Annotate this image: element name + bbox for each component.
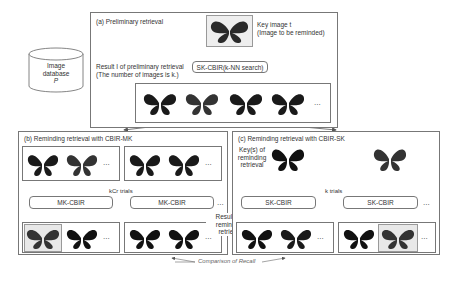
key-image [207,16,252,46]
butterfly-icon [379,225,417,251]
panel-cbir-mk: (b) Reminding retrieval with CBIR-MK ...… [18,131,228,255]
sk-result-row-right: ... [338,222,436,253]
matched-key-image [25,225,61,251]
ellipsis: ... [317,232,324,241]
mk-key-set-right: ... [124,146,222,181]
key-image-label-2: (Image to be reminded) [257,29,325,37]
mk-cbir-box-left: MK-CBIR [29,196,113,209]
ellipsis: ... [314,98,321,107]
butterfly-icon [207,16,252,46]
butterfly-icon [26,150,60,178]
butterfly-icon [279,225,313,251]
mk-result-row-left: ... [22,222,120,253]
panel-preliminary-retrieval: (a) Preliminary retrieval Key image t (I… [90,12,338,128]
keys-label-3: retrieval [235,161,269,169]
butterfly-icon [128,150,162,178]
ellipsis: ... [205,158,212,167]
database-label-3: P [27,77,85,85]
butterfly-icon [184,89,220,117]
database-label-2: database [27,70,85,78]
key-image-label-1: Key image t [257,21,325,29]
sk-result-row-left: ... [236,222,334,253]
butterfly-icon [65,150,99,178]
ellipsis: ... [423,198,430,207]
butterfly-icon [128,225,162,251]
image-database: Image database P [27,46,85,94]
panel-cbir-sk: (c) Reminding retrieval with CBIR-SK Key… [232,131,440,255]
butterfly-icon [167,150,201,178]
sk-trials-label: k trials [325,188,342,196]
panel-b-title: (b) Reminding retrieval with CBIR-MK [24,135,132,142]
keys-label-2: reminding [235,154,269,162]
butterfly-icon [270,144,306,174]
butterfly-icon [342,225,376,251]
butterfly-icon [228,89,264,117]
sk-cbir-box-left: SK-CBIR [241,196,316,209]
butterfly-icon [25,225,61,251]
butterfly-icon [240,225,274,251]
result-label-2: (The number of images is k.) [96,71,184,79]
sk-cbir-box-right: SK-CBIR [343,196,418,209]
database-label-1: Image [27,62,85,70]
mk-key-set-left: ... [22,146,120,181]
butterfly-icon [142,89,178,117]
butterfly-icon [270,89,306,117]
matched-key-image [379,225,417,251]
ellipsis: ... [421,232,428,241]
panel-a-title: (a) Preliminary retrieval [96,18,163,25]
result-label-1: Result I of preliminary retrieval [96,63,184,71]
butterfly-icon [372,144,408,174]
ellipsis: ... [217,198,224,207]
butterfly-icon [167,225,201,251]
keys-label-1: Key(s) of [235,146,269,154]
ellipsis: ... [103,232,110,241]
panel-c-title: (c) Reminding retrieval with CBIR-SK [238,135,345,142]
comparison-label: Comparison of Recall [198,258,255,266]
mk-trials-label: kCr trials [109,188,133,196]
mk-cbir-box-right: MK-CBIR [130,196,214,209]
sk-cbir-knn-box: SK-CBIR(k-NN search) [192,61,268,73]
butterfly-icon [65,225,99,251]
ellipsis: ... [103,158,110,167]
preliminary-result-row: ... [135,83,331,123]
